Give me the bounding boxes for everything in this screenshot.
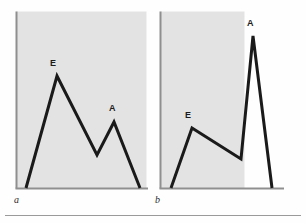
panel-a-peak-label-a: A [109, 104, 116, 113]
figure-container: E A E A a b [0, 0, 306, 223]
panel-a-peak-label-e: E [50, 59, 56, 68]
panel-b-caption: b [155, 194, 160, 205]
bottom-divider [5, 215, 301, 216]
panel-b-plot-area [161, 12, 245, 189]
panel-b-peak-label-a: A [247, 19, 254, 28]
panel-b [160, 12, 285, 189]
panel-a [16, 12, 149, 189]
figure-svg [0, 0, 306, 223]
panel-a-caption: a [14, 194, 19, 205]
panel-b-peak-label-e: E [185, 111, 191, 120]
panel-a-plot-area [17, 12, 147, 189]
